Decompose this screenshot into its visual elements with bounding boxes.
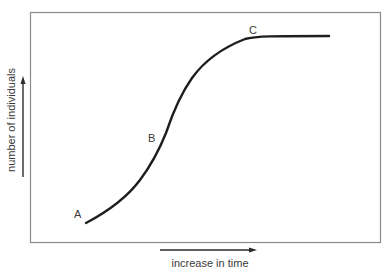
plot-frame xyxy=(31,13,381,243)
y-axis-arrow xyxy=(21,76,26,177)
growth-curve-diagram xyxy=(0,0,392,274)
sigmoid-curve xyxy=(86,36,329,223)
x-axis-label: increase in time xyxy=(160,257,260,269)
point-label-b: B xyxy=(148,133,155,144)
y-axis-label: number of individuals xyxy=(5,60,17,180)
point-label-c: C xyxy=(249,25,257,36)
point-label-a: A xyxy=(74,209,81,220)
x-axis-arrow xyxy=(160,248,257,253)
